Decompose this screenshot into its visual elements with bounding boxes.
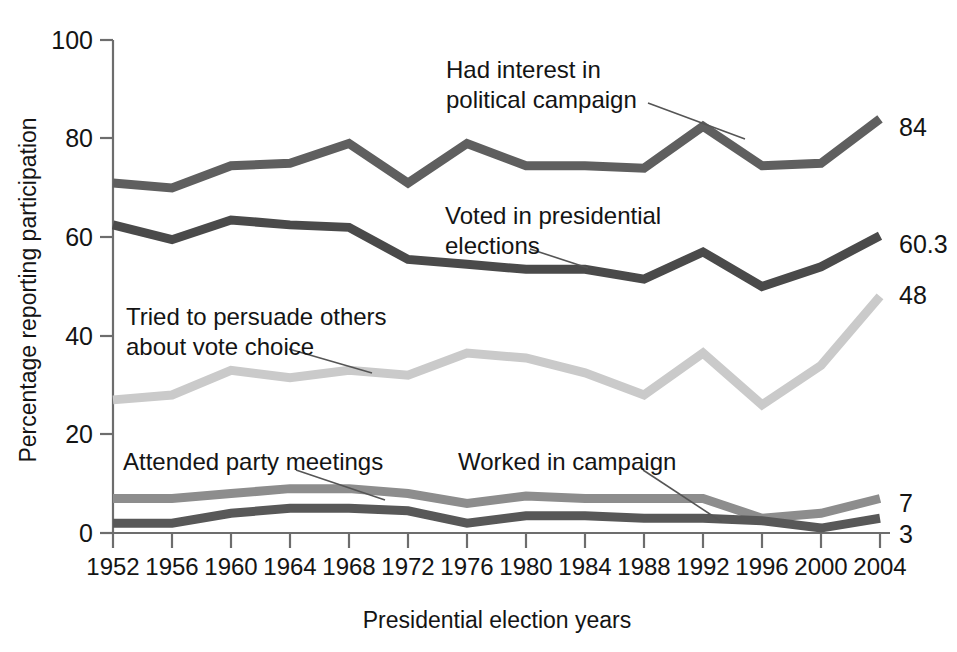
x-tick-2000: 2000 xyxy=(794,553,847,580)
x-tick-2004: 2004 xyxy=(853,553,906,580)
annotation-had-interest: Had interest in political campaign xyxy=(446,56,637,113)
y-tick-0: 0 xyxy=(79,519,93,547)
x-tick-1988: 1988 xyxy=(617,553,670,580)
annotation-voted-line1: Voted in presidential xyxy=(445,202,661,229)
x-tick-1972: 1972 xyxy=(381,553,434,580)
y-tick-60: 60 xyxy=(65,223,93,251)
y-axis-title: Percentage reporting participation xyxy=(15,117,41,462)
end-label-worked: 3 xyxy=(899,520,913,548)
annotation-had-interest-line1: Had interest in xyxy=(446,56,601,83)
x-tick-1956: 1956 xyxy=(145,553,198,580)
x-tick-labels: 1952 1956 1960 1964 1968 1972 1976 1980 … xyxy=(86,553,906,580)
x-tick-1992: 1992 xyxy=(676,553,729,580)
x-tick-marks xyxy=(113,533,880,548)
x-tick-1996: 1996 xyxy=(735,553,788,580)
end-value-labels: 84 60.3 48 7 3 xyxy=(899,113,948,548)
x-axis-title: Presidential election years xyxy=(363,607,631,633)
annotation-persuade-line2: about vote choice xyxy=(126,333,314,360)
y-tick-40: 40 xyxy=(65,322,93,350)
end-label-had-interest: 84 xyxy=(899,113,927,141)
end-label-attended: 7 xyxy=(899,489,913,517)
y-tick-100: 100 xyxy=(51,26,93,54)
x-tick-1980: 1980 xyxy=(499,553,552,580)
annotation-persuade-line1: Tried to persuade others xyxy=(126,303,387,330)
y-tick-80: 80 xyxy=(65,124,93,152)
series-line xyxy=(113,508,880,528)
x-tick-1968: 1968 xyxy=(322,553,375,580)
x-tick-1976: 1976 xyxy=(440,553,493,580)
y-tick-labels: 100 80 60 40 20 0 xyxy=(51,26,93,547)
y-tick-marks xyxy=(100,40,113,533)
end-label-persuade: 48 xyxy=(899,281,927,309)
series-line xyxy=(113,119,880,188)
annotation-persuade: Tried to persuade others about vote choi… xyxy=(126,303,387,360)
y-tick-20: 20 xyxy=(65,420,93,448)
line-chart-svg: 100 80 60 40 20 0 1952 1956 1960 1964 19… xyxy=(0,0,957,652)
x-tick-1984: 1984 xyxy=(558,553,611,580)
x-tick-1952: 1952 xyxy=(86,553,139,580)
end-label-voted: 60.3 xyxy=(899,230,948,258)
x-tick-1960: 1960 xyxy=(204,553,257,580)
annotation-attended: Attended party meetings xyxy=(123,448,383,475)
chart-container: 100 80 60 40 20 0 1952 1956 1960 1964 19… xyxy=(0,0,957,652)
annotation-voted-line2: elections xyxy=(445,232,540,259)
annotation-worked: Worked in campaign xyxy=(458,448,676,475)
x-tick-1964: 1964 xyxy=(263,553,316,580)
annotation-had-interest-line2: political campaign xyxy=(446,86,637,113)
annotation-voted: Voted in presidential elections xyxy=(445,202,661,259)
